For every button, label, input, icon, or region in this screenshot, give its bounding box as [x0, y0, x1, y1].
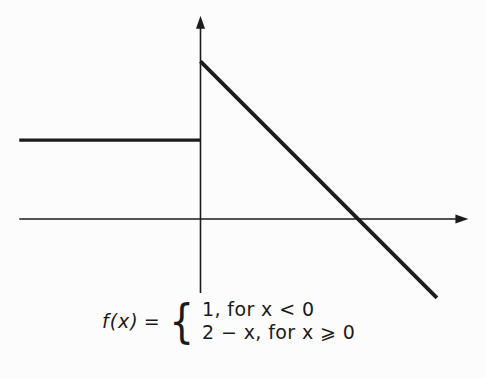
piecewise-function-figure: f(x) = { 1, for x < 0 2 − x, for x ⩾ 0 [0, 0, 486, 378]
case-line-1: 1, for x < 0 [202, 298, 355, 321]
function-definition: f(x) = { 1, for x < 0 2 − x, for x ⩾ 0 [102, 298, 355, 344]
linear-piece-line [201, 61, 437, 297]
cases-brace: { [169, 298, 194, 344]
y-axis-arrow-icon [196, 16, 205, 29]
case-line-2: 2 − x, for x ⩾ 0 [202, 321, 355, 344]
equals-sign: = [144, 310, 160, 332]
x-axis-arrow-icon [455, 215, 468, 224]
function-lhs: f(x) [102, 310, 139, 332]
cases-list: 1, for x < 0 2 − x, for x ⩾ 0 [202, 298, 355, 344]
